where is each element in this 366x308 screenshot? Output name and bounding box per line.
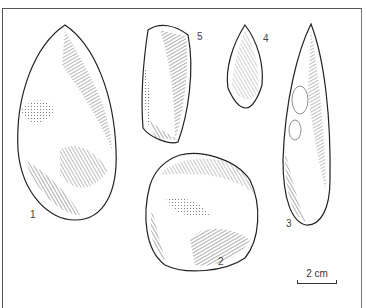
label-5: 5 xyxy=(197,31,203,42)
scale-bar: 2 cm xyxy=(297,268,337,284)
artifact-4-leaf-point xyxy=(227,25,262,108)
scale-bar-label: 2 cm xyxy=(297,268,337,279)
label-1: 1 xyxy=(30,209,36,220)
scale-bar-line xyxy=(297,280,337,284)
artifact-5-flake xyxy=(142,25,191,142)
artifact-3-point xyxy=(283,24,330,225)
artifact-1-handaxe xyxy=(18,25,116,220)
label-2: 2 xyxy=(218,256,224,267)
label-3: 3 xyxy=(286,218,292,229)
artifact-2-core xyxy=(146,154,258,271)
label-4: 4 xyxy=(263,33,269,44)
